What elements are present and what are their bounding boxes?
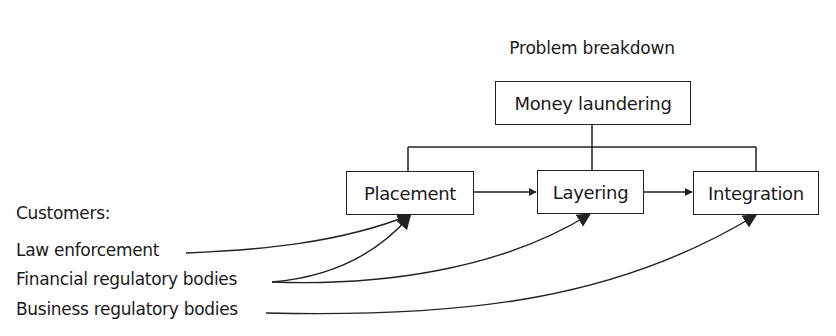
arrow-business-to-integration [266, 215, 756, 314]
customers-heading: Customers: [16, 203, 110, 223]
box-money-laundering-label: Money laundering [514, 93, 671, 114]
arrow-financial-to-layering [272, 214, 590, 283]
diagram-title: Problem breakdown [492, 38, 692, 58]
box-placement-label: Placement [364, 183, 456, 204]
arrow-financial-to-placement [272, 216, 410, 282]
box-layering-label: Layering [553, 182, 629, 203]
box-layering: Layering [537, 170, 644, 214]
customer-financial-regulatory-bodies: Financial regulatory bodies [16, 269, 237, 289]
arrow-law-enforcement-to-placement [186, 215, 410, 253]
problem-breakdown-diagram: Problem breakdown Money laundering Place… [0, 0, 836, 336]
hierarchy-connectors [408, 124, 756, 171]
box-money-laundering: Money laundering [495, 81, 691, 125]
box-integration-label: Integration [708, 183, 804, 204]
customer-business-regulatory-bodies: Business regulatory bodies [16, 299, 238, 319]
box-placement: Placement [346, 171, 474, 215]
box-integration: Integration [693, 171, 819, 215]
customer-arrows [186, 214, 756, 314]
customer-law-enforcement: Law enforcement [16, 240, 159, 260]
